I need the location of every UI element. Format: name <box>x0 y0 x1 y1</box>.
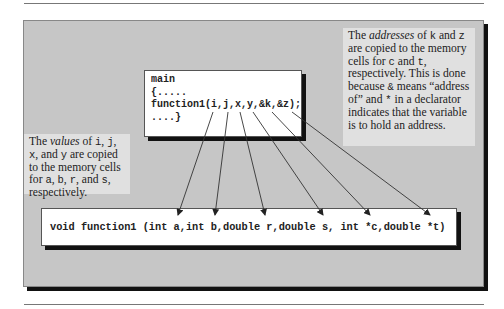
arrow-j-to-b <box>215 112 228 215</box>
arrow-x-to-r <box>240 112 265 215</box>
arrow-i-to-a <box>178 112 213 215</box>
arrows-layer <box>0 0 504 309</box>
arrow-k-to-c <box>272 112 370 215</box>
